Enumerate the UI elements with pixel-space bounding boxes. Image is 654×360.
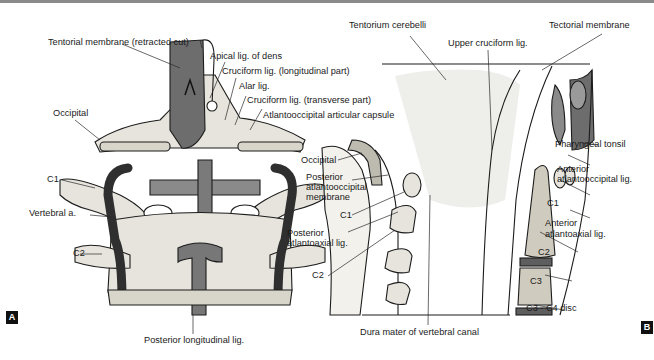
label-anterior-aal-2: atlantoaxial lig. — [545, 229, 606, 240]
label-cruciform-longitudinal: Cruciform lig. (longitudinal part) — [222, 66, 350, 77]
label-c3-c4-disc: C3 - C4 disc — [526, 303, 577, 314]
panel-tag-b: B — [641, 321, 653, 334]
label-pharyngeal-tonsil: Pharyngeal tonsil — [555, 139, 625, 150]
panel-a-drawing — [60, 40, 325, 315]
label-posterior-longitudinal-lig: Posterior longitudinal lig. — [144, 335, 244, 346]
label-upper-cruciform: Upper cruciform lig. — [448, 38, 528, 49]
label-posterior-aom-3: membrane — [306, 192, 350, 203]
label-c1-b-left: C1 — [340, 210, 352, 221]
label-c2-a: C2 — [73, 248, 85, 259]
label-occipital-b: Occipital — [301, 155, 336, 166]
label-c3: C3 — [530, 276, 542, 287]
label-tentorium-cerebelli: Tentorium cerebelli — [349, 20, 426, 31]
label-c1-a: C1 — [47, 174, 59, 185]
label-tentorial-membrane: Tentorial membrane (retracted cut) — [48, 37, 189, 48]
label-c2-b-right: C2 — [538, 247, 550, 258]
label-apical-lig-dens: Apical lig. of dens — [210, 51, 282, 62]
label-occipital-a: Occipital — [53, 108, 88, 119]
label-dura-mater: Dura mater of vertebral canal — [360, 327, 479, 338]
label-tectorial-membrane: Tectorial membrane — [549, 20, 630, 31]
label-anterior-aal-1: Anterior — [545, 218, 577, 229]
label-c1-b-right: C1 — [547, 198, 559, 209]
label-c2-b-left: C2 — [312, 270, 324, 281]
label-anterior-aol-2: atlantooccipital lig. — [557, 174, 632, 185]
panel-tag-a: A — [6, 311, 18, 324]
label-cruciform-transverse: Cruciform lig. (transverse part) — [247, 95, 371, 106]
label-alar-lig: Alar lig. — [239, 81, 270, 92]
label-posterior-aal-2: atlantoaxial lig. — [287, 238, 348, 249]
label-atlantooccipital-capsule: Atlantooccipital articular capsule — [263, 110, 394, 121]
label-vertebral-artery: Vertebral a. — [29, 208, 76, 219]
